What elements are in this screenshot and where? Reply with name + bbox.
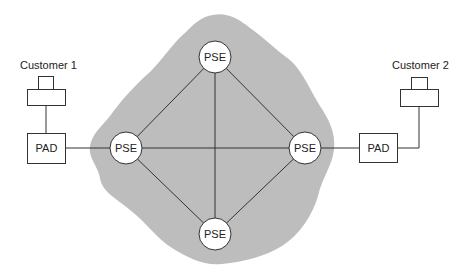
pad-label: PAD	[368, 142, 390, 154]
network-diagram: PSE PSE PSE PSE PAD PAD Customer 1 Custo…	[0, 0, 469, 275]
customer-1-label: Customer 1	[20, 59, 77, 71]
customer-2-label: Customer 2	[392, 59, 449, 71]
pse-node-left[interactable]: PSE	[110, 132, 142, 164]
terminal-icon-base	[28, 90, 66, 106]
pse-node-top[interactable]: PSE	[199, 41, 231, 73]
pse-label: PSE	[204, 228, 226, 240]
pse-node-bottom[interactable]: PSE	[199, 218, 231, 250]
pse-node-right[interactable]: PSE	[289, 132, 321, 164]
customer-2-terminal[interactable]	[401, 78, 439, 107]
terminal-icon-top	[412, 78, 428, 90]
pad-left[interactable]: PAD	[28, 134, 66, 164]
link-customer2-pad	[397, 107, 419, 148]
pad-label: PAD	[36, 142, 58, 154]
pse-label: PSE	[115, 142, 137, 154]
terminal-icon-top	[39, 77, 54, 90]
pad-right[interactable]: PAD	[360, 134, 398, 163]
pse-label: PSE	[204, 51, 226, 63]
terminal-icon-base	[401, 90, 439, 107]
pse-label: PSE	[294, 142, 316, 154]
customer-1-terminal[interactable]	[28, 77, 66, 106]
